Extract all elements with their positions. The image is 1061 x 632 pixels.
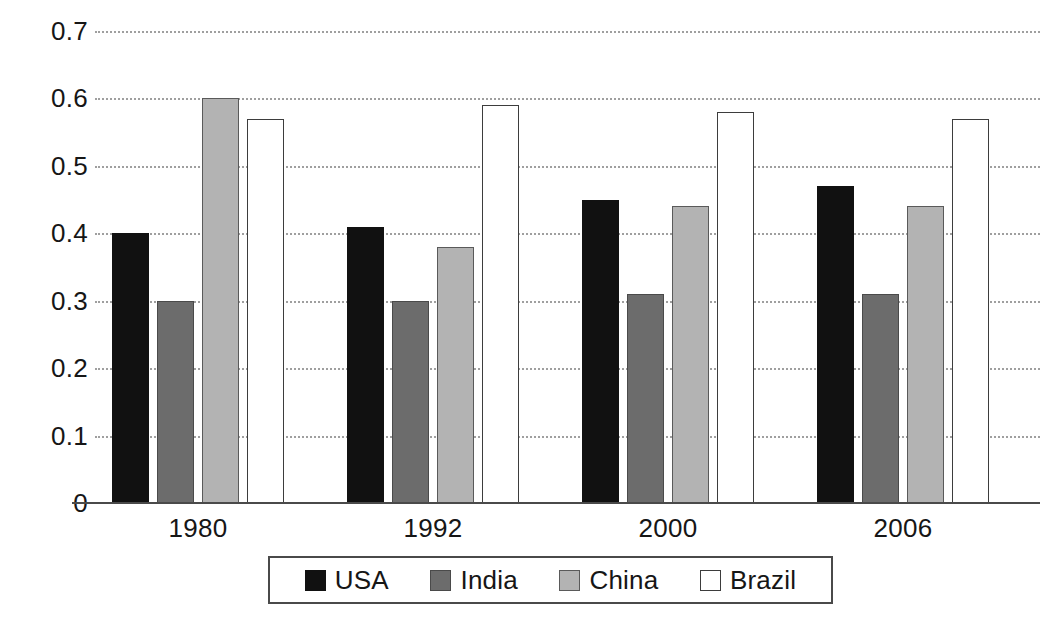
bar-brazil-2006 — [952, 119, 989, 503]
bar-usa-2006 — [817, 186, 854, 503]
bar-india-1980 — [157, 301, 194, 503]
legend-swatch-brazil-icon — [700, 570, 721, 591]
bar-usa-1980 — [112, 233, 149, 503]
bar-china-2006 — [907, 206, 944, 503]
bar-india-2000 — [627, 294, 664, 503]
legend-swatch-india-icon — [430, 570, 451, 591]
bar-china-1992 — [437, 247, 474, 503]
legend-swatch-usa-icon — [305, 570, 326, 591]
bar-usa-2000 — [582, 200, 619, 503]
y-axis-labels: 00.10.20.30.40.50.60.7 — [0, 31, 88, 503]
legend-item-usa[interactable]: USA — [305, 567, 389, 593]
bar-brazil-1992 — [482, 105, 519, 503]
y-tick-label: 0.1 — [14, 423, 88, 449]
y-tick-label: 0.2 — [14, 355, 88, 381]
bar-brazil-1980 — [247, 119, 284, 503]
x-tick-label-1992: 1992 — [373, 512, 493, 544]
bar-china-1980 — [202, 98, 239, 503]
x-tick-label-2006: 2006 — [843, 512, 963, 544]
y-tick-label: 0.7 — [14, 18, 88, 44]
x-axis-line — [72, 502, 1040, 504]
legend-label: China — [589, 567, 658, 593]
bar-brazil-2000 — [717, 112, 754, 503]
x-tick-label-1980: 1980 — [138, 512, 258, 544]
y-tick-label: 0.4 — [14, 220, 88, 246]
bars-layer — [95, 31, 1040, 503]
legend-swatch-china-icon — [559, 570, 580, 591]
y-tick-label: 0.6 — [14, 85, 88, 111]
legend-label: USA — [335, 567, 389, 593]
bar-usa-1992 — [347, 227, 384, 503]
bar-china-2000 — [672, 206, 709, 503]
y-tick-label: 0.5 — [14, 153, 88, 179]
legend-item-brazil[interactable]: Brazil — [700, 567, 796, 593]
bar-india-1992 — [392, 301, 429, 503]
bar-chart: 00.10.20.30.40.50.60.7 1980199220002006 … — [0, 0, 1061, 632]
legend-item-india[interactable]: India — [430, 567, 517, 593]
legend-label: India — [460, 567, 517, 593]
legend-label: Brazil — [730, 567, 796, 593]
x-axis-labels: 1980199220002006 — [95, 512, 1040, 548]
legend: USAIndiaChinaBrazil — [268, 556, 833, 604]
y-tick-label: 0.3 — [14, 288, 88, 314]
bar-india-2006 — [862, 294, 899, 503]
x-tick-label-2000: 2000 — [608, 512, 728, 544]
legend-item-china[interactable]: China — [559, 567, 658, 593]
